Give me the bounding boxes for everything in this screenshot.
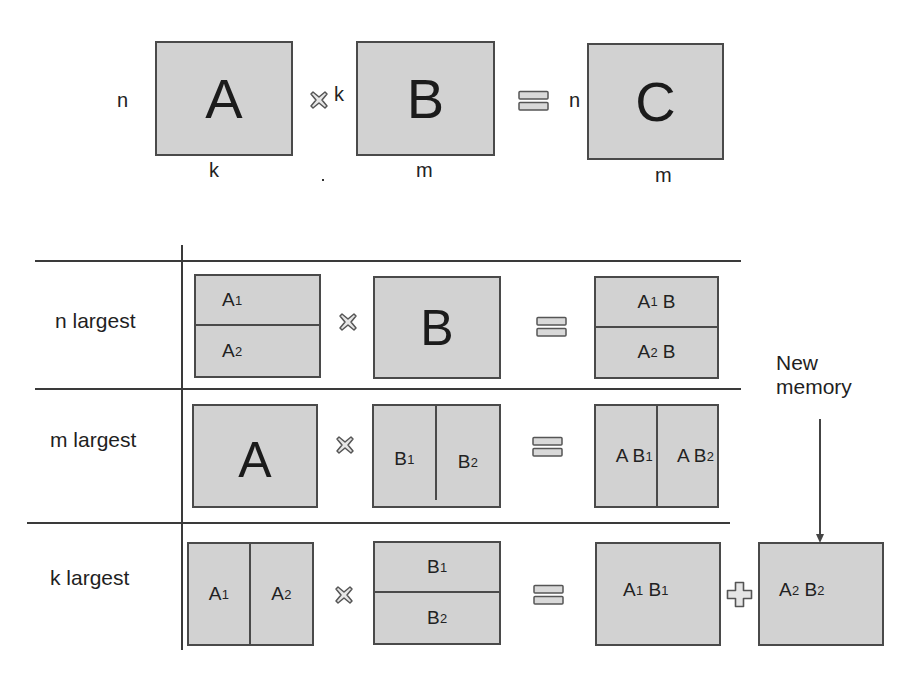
- cell-base: A: [209, 583, 222, 605]
- cell-subscript: 1: [407, 452, 414, 467]
- cell-subscript: 1: [222, 587, 229, 602]
- extra-result-box: A2 B2: [758, 542, 884, 646]
- cell-subscript: 2: [440, 611, 447, 626]
- result-matrix-box: A1 B1: [595, 542, 721, 646]
- left-matrix-box: A: [192, 404, 318, 508]
- multiply-icon: [309, 90, 329, 110]
- plus-icon: [726, 581, 753, 608]
- cell-base: A: [271, 583, 284, 605]
- cell-subscript: 1: [646, 449, 653, 464]
- matrix-b-label: B: [358, 43, 493, 154]
- cell-base: A B: [616, 445, 646, 467]
- dim-n-label-a: n: [117, 90, 128, 110]
- matrix-c-box: C: [587, 43, 724, 160]
- equals-icon: [518, 90, 549, 112]
- cell-subscript: 1: [235, 293, 242, 308]
- cell-subscript: 2: [235, 344, 242, 359]
- right-matrix-box: B1 B2: [373, 541, 501, 645]
- partition-a2b: A2 B: [596, 328, 717, 378]
- partition-a2b2: A2 B2: [760, 544, 882, 644]
- partition-b1: B1: [375, 543, 499, 593]
- right-matrix-box: B1 B2: [372, 404, 501, 508]
- cell-subscript: 2: [792, 583, 799, 598]
- dim-m-label-c: m: [655, 165, 672, 185]
- cell-base: A: [222, 289, 235, 311]
- cell-base: A: [779, 579, 792, 601]
- dim-k-label-b: k: [334, 84, 344, 104]
- cell-subscript: 1: [440, 560, 447, 575]
- row-label: n largest: [55, 310, 136, 331]
- cell-suffix: B: [799, 579, 817, 601]
- cell-base: B: [394, 448, 407, 470]
- cell-subscript: 1: [650, 294, 657, 309]
- annotation-line1: New: [776, 351, 818, 375]
- partition-a2: A2: [251, 544, 313, 644]
- cell-subscript: 2: [650, 345, 657, 360]
- grid-line-vertical: [181, 245, 183, 650]
- cell-base: A: [637, 291, 650, 313]
- grid-line-top: [35, 260, 741, 262]
- multiply-icon: [335, 435, 355, 455]
- cell-suffix: B: [643, 579, 661, 601]
- partition-a1b1: A1 B1: [597, 544, 719, 644]
- partition-ab1: A B1: [596, 406, 658, 506]
- left-matrix-box: A1 A2: [187, 542, 314, 646]
- matrix-a-label: A: [157, 43, 291, 154]
- cell-base: A B: [677, 445, 707, 467]
- right-matrix-box: B: [373, 276, 501, 379]
- row-label: m largest: [50, 429, 136, 450]
- matrix-c-label: C: [589, 45, 722, 158]
- cell-subscript: 1: [636, 583, 643, 598]
- cell-base: B: [458, 451, 471, 473]
- annotation-line2: memory: [776, 375, 852, 399]
- result-matrix-box: A B1 A B2: [594, 404, 719, 508]
- partition-ab2: A B2: [658, 406, 717, 506]
- matrix-a-label: A: [194, 410, 316, 510]
- matrix-a-box: A: [155, 41, 293, 156]
- dim-n-label-c: n: [569, 90, 580, 110]
- multiply-icon: [338, 312, 358, 332]
- cell-subscript: 2: [817, 583, 824, 598]
- equals-icon: [536, 316, 567, 338]
- cell-subscript: 2: [284, 587, 291, 602]
- dim-k-label-a: k: [209, 160, 219, 180]
- partition-a1: A1: [196, 276, 319, 326]
- matrix-b-box: B: [356, 41, 495, 156]
- partition-b1: B1: [374, 406, 437, 500]
- cell-subscript: 1: [661, 583, 668, 598]
- cell-suffix: B: [658, 291, 676, 313]
- equals-icon: [533, 584, 564, 606]
- partition-b2: B2: [437, 406, 500, 506]
- stray-dot: [322, 179, 324, 181]
- cell-base: A: [222, 340, 235, 362]
- row-label: k largest: [50, 567, 129, 588]
- matrix-b-label: B: [375, 278, 499, 377]
- dim-m-label-b: m: [416, 160, 433, 180]
- arrow-down-icon: [819, 419, 821, 537]
- cell-suffix: B: [658, 341, 676, 363]
- partition-a1b: A1 B: [596, 278, 717, 328]
- partition-a1: A1: [189, 544, 251, 644]
- cell-subscript: 2: [707, 449, 714, 464]
- cell-base: B: [427, 556, 440, 578]
- cell-base: A: [637, 341, 650, 363]
- multiply-icon: [334, 585, 354, 605]
- cell-subscript: 2: [471, 455, 478, 470]
- left-matrix-box: A1 A2: [194, 274, 321, 378]
- grid-line-bottom: [27, 522, 730, 524]
- equals-icon: [532, 436, 563, 458]
- grid-line-middle: [35, 388, 741, 390]
- arrow-head-icon: [816, 534, 824, 543]
- partition-a2: A2: [196, 326, 319, 376]
- result-matrix-box: A1 B A2 B: [594, 276, 719, 379]
- cell-base: A: [623, 579, 636, 601]
- partition-b2: B2: [375, 593, 499, 643]
- cell-base: B: [427, 607, 440, 629]
